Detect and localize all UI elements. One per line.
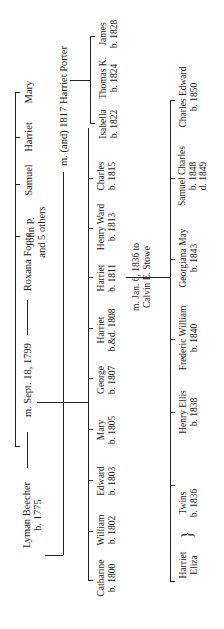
tick-henry-ellis [170, 412, 175, 413]
stowe-children-spine [170, 100, 171, 582]
tick-samuel-foote [15, 184, 20, 185]
foote-siblings-bracket-line [15, 92, 16, 446]
tick-georgiana [170, 259, 175, 260]
lyman-spine-line [63, 172, 64, 555]
marriage1-dash [27, 300, 28, 335]
tick-henry-ward [88, 228, 93, 229]
tick-john-foote [15, 236, 20, 237]
children-first-spine [88, 128, 89, 581]
tick-catharine [88, 580, 93, 581]
tick-frederic [170, 339, 175, 340]
tick-harriet-eliza [170, 581, 175, 582]
tick-charles [88, 178, 93, 179]
marriage1-connector [37, 402, 88, 403]
tick-james [90, 36, 95, 37]
tick-edward [88, 480, 93, 481]
tick-samuel-charles [170, 178, 175, 179]
tick-william [88, 531, 93, 532]
tick-harriet-1811 [88, 277, 93, 278]
lyman-born: b. 1775 [32, 482, 43, 548]
tick-george [88, 378, 93, 379]
lyman-name: Lyman Beecher [21, 482, 32, 548]
tick-harriet-1808 [88, 328, 93, 329]
family-tree-diagram: Lyman Beecherb. 1775 m. Sept. 18, 1799 R… [0, 0, 224, 629]
children-second-spine [90, 36, 91, 124]
marriage2-connector [70, 80, 90, 81]
lyman-to-marriage-dash [27, 432, 28, 468]
tick-harriet-foote [15, 137, 20, 138]
tick-roxana-foote [15, 446, 20, 447]
tick-mary [88, 429, 93, 430]
lyman-connector [45, 555, 63, 556]
tick-isabella [90, 123, 95, 124]
tick-twins [170, 485, 175, 486]
tick-charles-edward [170, 100, 175, 101]
tick-mary-foote [15, 92, 20, 93]
